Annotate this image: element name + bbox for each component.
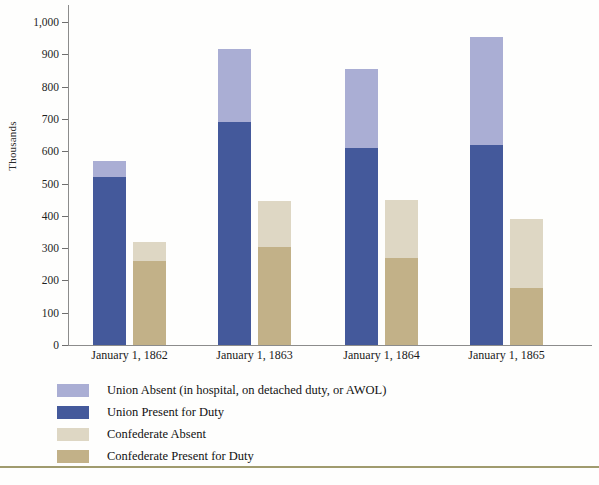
- legend-item[interactable]: Union Absent (in hospital, on detached d…: [57, 380, 557, 401]
- bar-segment: [133, 242, 166, 261]
- bar-union-11865[interactable]: [470, 37, 503, 345]
- legend-swatch: [57, 428, 89, 441]
- plot-area: 01002003004005006007008009001,000: [68, 5, 592, 346]
- bar-segment: [218, 49, 251, 122]
- y-tick-mark: [62, 248, 68, 249]
- y-tick-mark: [62, 345, 68, 346]
- y-tick-label: 200: [42, 274, 59, 286]
- y-tick-mark: [62, 87, 68, 88]
- x-tick-label: January 1, 1865: [468, 348, 544, 363]
- bar-segment: [133, 261, 166, 345]
- y-axis-title: Thousands: [6, 101, 18, 191]
- x-tick-label: January 1, 1864: [343, 348, 419, 363]
- bar-segment: [510, 219, 543, 288]
- page-divider-rule: [0, 466, 599, 468]
- y-tick-label: 500: [42, 178, 59, 190]
- y-tick-mark: [62, 184, 68, 185]
- bar-confederate-11862[interactable]: [133, 242, 166, 345]
- bar-segment: [218, 122, 251, 345]
- y-tick-label: 300: [42, 242, 59, 254]
- y-tick-label: 700: [42, 113, 59, 125]
- y-tick-mark: [62, 280, 68, 281]
- x-axis-line: [68, 345, 592, 346]
- y-tick-mark: [62, 313, 68, 314]
- bar-confederate-11864[interactable]: [385, 200, 418, 345]
- bar-segment: [345, 148, 378, 345]
- bar-segment: [470, 145, 503, 345]
- legend-swatch: [57, 384, 89, 397]
- y-tick-label: 100: [42, 307, 59, 319]
- legend-item[interactable]: Confederate Absent: [57, 424, 557, 445]
- bar-segment: [258, 201, 291, 246]
- legend-item[interactable]: Confederate Present for Duty: [57, 446, 557, 467]
- bar-segment: [93, 177, 126, 345]
- legend-item[interactable]: Union Present for Duty: [57, 402, 557, 423]
- y-tick-label: 600: [42, 145, 59, 157]
- bar-union-11862[interactable]: [93, 161, 126, 345]
- legend-label: Confederate Present for Duty: [107, 449, 254, 464]
- y-tick-mark: [62, 216, 68, 217]
- bar-segment: [385, 258, 418, 345]
- bar-segment: [345, 69, 378, 148]
- legend-swatch: [57, 450, 89, 463]
- legend-label: Confederate Absent: [107, 427, 206, 442]
- y-tick-label: 800: [42, 81, 59, 93]
- x-tick-label: January 1, 1863: [216, 348, 292, 363]
- y-tick-label: 0: [53, 339, 59, 351]
- y-tick-label: 1,000: [33, 16, 59, 28]
- chart-legend: Union Absent (in hospital, on detached d…: [57, 380, 557, 468]
- y-tick-mark: [62, 119, 68, 120]
- bar-segment: [258, 247, 291, 346]
- y-tick-mark: [62, 54, 68, 55]
- chart-figure: Thousands 01002003004005006007008009001,…: [0, 0, 599, 485]
- y-tick-mark: [62, 22, 68, 23]
- bar-segment: [93, 161, 126, 177]
- bar-union-11864[interactable]: [345, 69, 378, 345]
- legend-swatch: [57, 406, 89, 419]
- legend-label: Union Present for Duty: [107, 405, 224, 420]
- bar-union-11863[interactable]: [218, 49, 251, 345]
- bar-confederate-11863[interactable]: [258, 201, 291, 345]
- y-axis-line: [68, 5, 69, 346]
- bar-confederate-11865[interactable]: [510, 219, 543, 345]
- legend-label: Union Absent (in hospital, on detached d…: [107, 383, 386, 398]
- y-tick-label: 900: [42, 48, 59, 60]
- y-tick-label: 400: [42, 210, 59, 222]
- bar-segment: [470, 37, 503, 145]
- bar-segment: [510, 288, 543, 345]
- x-tick-label: January 1, 1862: [91, 348, 167, 363]
- bar-segment: [385, 200, 418, 258]
- y-tick-mark: [62, 151, 68, 152]
